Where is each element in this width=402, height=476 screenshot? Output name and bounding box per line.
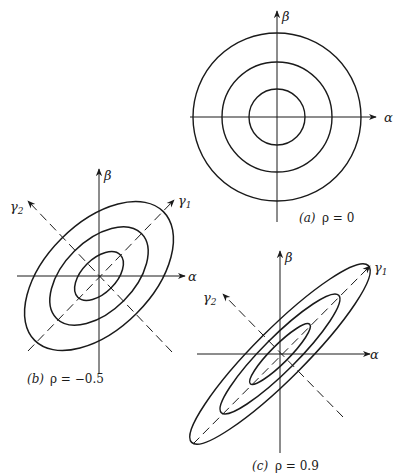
gamma2-axis <box>223 294 343 417</box>
gamma1-label: γ1 <box>374 260 388 277</box>
panel-b: β α γ1 γ2 (b) ρ = −0.5 <box>0 168 201 386</box>
caption-equation: ρ = 0 <box>322 211 354 225</box>
gamma2-label: γ2 <box>10 199 24 216</box>
panel-a: β α (a) ρ = 0 <box>190 9 393 225</box>
caption-tag: (c) <box>252 459 268 473</box>
beta-label: β <box>103 168 112 183</box>
beta-label: β <box>284 250 293 265</box>
caption-equation: ρ = −0.5 <box>50 372 104 386</box>
caption-tag: (a) <box>299 211 316 225</box>
caption-tag: (b) <box>27 372 44 386</box>
gamma1-label: γ1 <box>178 193 192 210</box>
caption-equation: ρ = 0.9 <box>275 459 319 473</box>
gamma2-label: γ2 <box>203 290 217 307</box>
beta-label: β <box>281 9 290 24</box>
alpha-label: α <box>384 110 393 125</box>
gamma1-axis <box>193 266 370 444</box>
figure-canvas: β α (a) ρ = 0 β α γ1 γ2 (b) ρ = −0.5 β <box>0 0 402 476</box>
alpha-label: α <box>188 269 197 284</box>
panel-c: β α γ1 γ2 (c) ρ = 0.9 <box>174 248 388 473</box>
alpha-label: α <box>370 347 379 362</box>
